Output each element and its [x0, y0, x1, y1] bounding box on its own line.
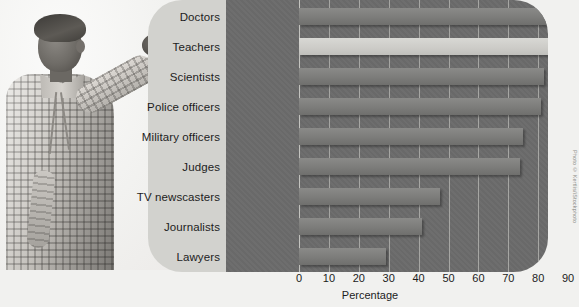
- x-tick-10: 10: [323, 272, 335, 284]
- bar-scientists: [299, 68, 544, 85]
- x-axis-title-text: Percentage: [342, 289, 398, 301]
- x-axis-ticks: 0102030405060708090100: [148, 272, 548, 290]
- x-tick-70: 70: [502, 272, 514, 284]
- bar-journalists: [299, 218, 422, 235]
- bar-row: [226, 182, 548, 212]
- category-label-military-officers: Military officers: [142, 122, 220, 152]
- bar-row: [226, 242, 548, 272]
- bar-military-officers: [299, 128, 523, 145]
- plot-area: [226, 0, 548, 272]
- x-axis-title: Percentage: [148, 289, 548, 301]
- chart-panel: DoctorsTeachersScientistsPolice officers…: [148, 0, 548, 272]
- category-label-teachers: Teachers: [173, 32, 220, 62]
- bar-row: [226, 32, 548, 62]
- x-tick-80: 80: [532, 272, 544, 284]
- x-tick-0: 0: [296, 272, 302, 284]
- bar-row: [226, 62, 548, 92]
- bar-teachers: [299, 38, 548, 55]
- bar-lawyers: [299, 248, 386, 265]
- category-label-journalists: Journalists: [164, 212, 220, 242]
- x-tick-60: 60: [472, 272, 484, 284]
- category-label-scientists: Scientists: [170, 62, 220, 92]
- hair: [34, 14, 86, 42]
- category-label-tv-newscasters: TV newscasters: [137, 182, 220, 212]
- bar-tv-newscasters: [299, 188, 440, 205]
- bar-row: [226, 2, 548, 32]
- figure-root: DoctorsTeachersScientistsPolice officers…: [0, 0, 579, 307]
- bar-doctors: [299, 8, 548, 25]
- x-tick-90: 90: [562, 272, 574, 284]
- category-label-police-officers: Police officers: [147, 92, 220, 122]
- bar-police-officers: [299, 98, 541, 115]
- category-label-lawyers: Lawyers: [176, 242, 220, 272]
- x-tick-20: 20: [353, 272, 365, 284]
- x-tick-50: 50: [442, 272, 454, 284]
- category-label-doctors: Doctors: [180, 2, 220, 32]
- photo-credit: Photo © Kertlis/iStockphoto: [572, 150, 578, 223]
- bar-row: [226, 92, 548, 122]
- bar-row: [226, 212, 548, 242]
- ear: [76, 40, 85, 53]
- bar-series: [226, 0, 548, 272]
- bar-row: [226, 122, 548, 152]
- category-label-panel: DoctorsTeachersScientistsPolice officers…: [148, 0, 226, 272]
- bar-row: [226, 152, 548, 182]
- category-label-judges: Judges: [182, 152, 220, 182]
- x-tick-40: 40: [412, 272, 424, 284]
- x-tick-30: 30: [383, 272, 395, 284]
- bar-judges: [299, 158, 520, 175]
